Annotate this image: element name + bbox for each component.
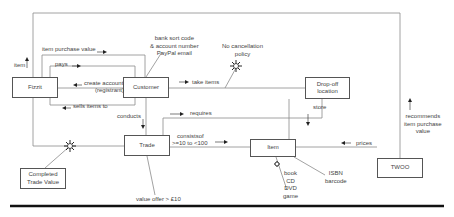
note-no-cancellation: No cancellation policy <box>222 43 263 58</box>
rel-prices: prices <box>356 140 372 148</box>
arrow-up-icon <box>25 57 29 61</box>
note-media-types: book CD DVD game <box>283 170 298 200</box>
rel-item-purchase-value: item purchase value <box>42 46 96 54</box>
rel-recommends: recommends item purchase value <box>404 113 442 136</box>
note-value-offer: value offer > £10 <box>136 196 181 204</box>
diagram-lines <box>0 0 454 217</box>
rel-registrant: (registrant) <box>95 87 124 95</box>
note-isbn: ISBN barcode <box>325 170 347 185</box>
note-bank-details: bank sort code & account number PayPal e… <box>150 35 199 58</box>
rel-consists-range: >=10 to <100 <box>172 140 208 148</box>
rel-conducts: conducts <box>117 113 141 121</box>
entity-customer[interactable]: Customer <box>123 77 169 98</box>
entity-label: Customer <box>133 84 159 92</box>
entity-label: Item <box>267 144 279 152</box>
entity-item[interactable]: Item <box>250 139 296 157</box>
rel-sells-items-to: sells items to <box>73 103 108 111</box>
rel-store: store <box>313 104 326 112</box>
entity-completed-trade-value[interactable]: Completed Trade Value <box>20 168 66 189</box>
entity-label: Trade <box>139 142 154 150</box>
entity-label: Drop-off location <box>306 81 349 96</box>
entity-label: TWOO <box>391 164 410 172</box>
entity-twoo[interactable]: TWOO <box>377 158 423 178</box>
entity-fizzit[interactable]: Fizzit <box>12 77 58 98</box>
rel-take-items: take items <box>192 79 219 87</box>
entity-label: Completed Trade Value <box>24 171 62 186</box>
entity-trade[interactable]: Trade <box>124 135 170 156</box>
rel-pays: pays <box>55 61 68 69</box>
entity-label: Fizzit <box>28 84 42 92</box>
rel-item: item <box>14 62 25 70</box>
entity-dropoff[interactable]: Drop-off location <box>305 77 350 99</box>
rel-requires: requires <box>190 110 212 118</box>
